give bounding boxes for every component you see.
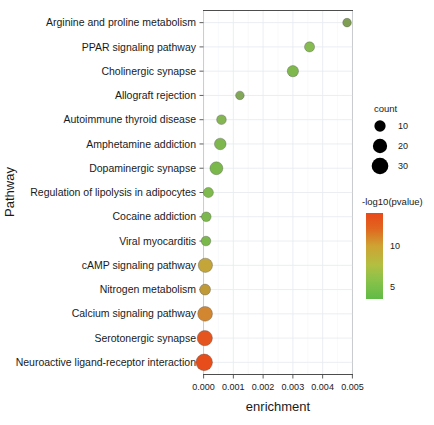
data-point [210, 162, 223, 175]
y-axis-tick-label: Amphetamine addiction [86, 138, 196, 150]
y-axis-tick-label: Arginine and proline metabolism [46, 16, 196, 28]
size-legend-label: 20 [398, 141, 408, 151]
y-axis-tick-label: Serotonergic synapse [94, 332, 196, 344]
size-legend-label: 30 [398, 161, 408, 171]
y-axis-tick-label: cAMP signaling pathway [82, 259, 197, 271]
y-axis-tick-label: Calcium signaling pathway [72, 307, 197, 319]
y-axis-tick-label: Nitrogen metabolism [100, 283, 197, 295]
x-axis-tick-label: 0.002 [252, 382, 275, 392]
plot-panel [204, 11, 353, 375]
y-axis-tick-label: PPAR signaling pathway [82, 41, 197, 53]
y-axis-tick-label: Viral myocarditis [119, 235, 196, 247]
data-point [200, 284, 211, 295]
color-legend-title: -log10(pvalue) [362, 196, 423, 207]
data-point [214, 138, 226, 150]
x-axis-tick-label: 0.005 [341, 382, 364, 392]
colorbar-tick-label: 5 [390, 282, 395, 292]
data-point [343, 18, 352, 27]
data-point [198, 306, 213, 321]
colorbar [366, 213, 383, 299]
x-axis-title: enrichment [246, 399, 311, 414]
y-axis-tick-label: Autoimmune thyroid disease [64, 113, 197, 125]
y-axis-tick-label: Cholinergic synapse [101, 65, 196, 77]
data-point [197, 330, 212, 345]
x-axis-tick-label: 0.004 [311, 382, 334, 392]
y-axis-title: Pathway [2, 167, 17, 217]
data-point [236, 91, 245, 100]
y-axis-tick-label: Cocaine addiction [113, 210, 197, 222]
colorbar-tick-label: 10 [390, 241, 400, 251]
y-axis-tick-label: Allograft rejection [115, 89, 196, 101]
size-legend-dot [374, 120, 385, 131]
data-point [217, 115, 227, 125]
data-point [198, 258, 212, 272]
x-axis-tick-label: 0.000 [192, 382, 215, 392]
size-legend-label: 10 [398, 121, 408, 131]
y-axis-tick-label: Dopaminergic synapse [89, 162, 196, 174]
data-point [203, 187, 213, 197]
data-point [287, 66, 298, 77]
data-point [305, 42, 315, 52]
x-axis-tick-label: 0.003 [282, 382, 305, 392]
enrichment-dot-plot: Arginine and proline metabolismPPAR sign… [0, 0, 434, 425]
data-point [201, 212, 211, 222]
size-legend-title: count [374, 103, 398, 114]
size-legend-dot [372, 158, 389, 175]
data-point [201, 236, 211, 246]
y-axis-tick-label: Regulation of lipolysis in adipocytes [30, 186, 196, 198]
data-point [196, 354, 213, 371]
size-legend-dot [373, 139, 387, 153]
x-axis-tick-label: 0.001 [222, 382, 245, 392]
y-axis-tick-label: Neuroactive ligand-receptor interaction [16, 356, 197, 368]
